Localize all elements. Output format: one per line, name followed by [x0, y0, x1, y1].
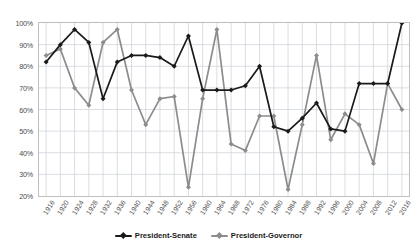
data-point: [371, 81, 376, 86]
data-point: [115, 59, 120, 64]
data-point: [214, 88, 219, 93]
x-axis-tick-label: 2004: [355, 199, 369, 216]
data-point: [200, 96, 205, 101]
chart-legend: President-SenatePresident-Governor: [0, 231, 417, 240]
y-axis-tick-label: 40%: [19, 148, 33, 157]
y-axis-labels: 20%30%40%50%60%70%80%90%100%: [0, 22, 36, 197]
y-axis-tick-label: 20%: [19, 192, 33, 201]
data-point: [286, 187, 291, 192]
legend-label: President-Senate: [135, 231, 197, 240]
x-axis-tick-label: 1980: [270, 199, 284, 216]
x-axis-tick-label: 1972: [241, 199, 255, 216]
x-axis-tick-label: 1964: [213, 199, 227, 216]
x-axis-tick-label: 2008: [369, 199, 383, 216]
x-axis-tick-label: 2016: [398, 199, 412, 216]
chart-container: 20%30%40%50%60%70%80%90%100% 19161920192…: [0, 0, 417, 248]
data-point: [143, 53, 148, 58]
x-axis-tick-label: 1956: [184, 199, 198, 216]
x-axis-tick-label: 1936: [113, 199, 127, 216]
x-axis-tick-label: 1940: [127, 199, 141, 216]
y-axis-tick-label: 100%: [15, 19, 33, 28]
x-axis-tick-label: 1988: [298, 199, 312, 216]
data-point: [300, 122, 305, 127]
data-point: [44, 53, 49, 58]
data-point: [399, 23, 404, 26]
x-axis-tick-label: 1952: [170, 199, 184, 216]
x-axis-tick-label: 1916: [42, 199, 56, 216]
y-axis-tick-label: 90%: [19, 40, 33, 49]
series-plot: [39, 23, 409, 196]
data-point: [129, 88, 134, 93]
x-axis-tick-label: 1928: [85, 199, 99, 216]
data-point: [342, 129, 347, 134]
data-point: [243, 148, 248, 153]
data-point: [172, 94, 177, 99]
data-point: [186, 185, 191, 190]
x-axis-tick-label: 1996: [326, 199, 340, 216]
x-axis-tick-label: 1920: [56, 199, 70, 216]
y-axis-tick-label: 60%: [19, 105, 33, 114]
y-axis-tick-label: 30%: [19, 170, 33, 179]
x-axis-tick-label: 1992: [312, 199, 326, 216]
x-axis-tick-label: 1924: [70, 199, 84, 216]
plot-area: [38, 22, 410, 197]
x-axis-tick-label: 2000: [341, 199, 355, 216]
legend-marker-icon: [115, 235, 132, 237]
data-point: [371, 161, 376, 166]
legend-marker-icon: [211, 235, 228, 237]
legend-item[interactable]: President-Senate: [115, 231, 197, 240]
legend-label: President-Governor: [231, 231, 302, 240]
y-axis-tick-label: 50%: [19, 127, 33, 136]
data-point: [101, 96, 106, 101]
legend-item[interactable]: President-Governor: [211, 231, 302, 240]
y-axis-tick-label: 70%: [19, 83, 33, 92]
x-axis-tick-label: 1984: [284, 199, 298, 216]
data-point: [229, 88, 234, 93]
x-axis-tick-label: 1948: [156, 199, 170, 216]
x-axis-tick-label: 1944: [141, 199, 155, 216]
data-point: [214, 27, 219, 32]
data-point: [229, 142, 234, 147]
x-axis-tick-label: 1976: [255, 199, 269, 216]
x-axis-tick-label: 1932: [99, 199, 113, 216]
data-point: [357, 81, 362, 86]
x-axis-tick-label: 1960: [198, 199, 212, 216]
x-axis-tick-label: 2012: [383, 199, 397, 216]
x-axis-tick-label: 1968: [227, 199, 241, 216]
data-point: [314, 53, 319, 58]
y-axis-tick-label: 80%: [19, 62, 33, 71]
x-axis-labels: 1916192019241928193219361940194419481952…: [38, 199, 410, 229]
data-point: [257, 113, 262, 118]
data-point: [129, 53, 134, 58]
